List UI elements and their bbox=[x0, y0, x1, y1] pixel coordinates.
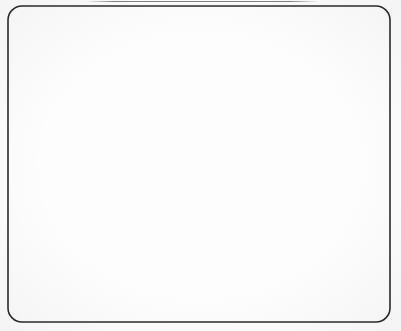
rounded-rectangle-frame bbox=[8, 6, 390, 322]
particle-field-diagram bbox=[0, 0, 401, 331]
frame-group bbox=[8, 6, 390, 322]
figure-root bbox=[0, 0, 401, 331]
